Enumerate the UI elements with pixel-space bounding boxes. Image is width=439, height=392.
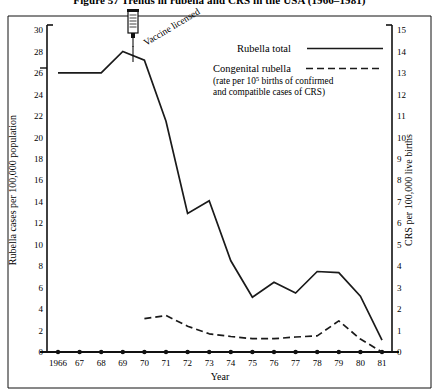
y-left-tick-label: 12	[34, 218, 43, 228]
x-tick-marker	[99, 350, 103, 354]
y-left-tick-label: 18	[34, 154, 44, 164]
y-right-tick-label: 13	[397, 68, 407, 78]
x-tick-label: 67	[75, 358, 85, 368]
x-tick-label: 79	[334, 358, 344, 368]
legend-label-congenital-rubella: Congenital rubella	[213, 63, 291, 74]
x-tick-label: 74	[226, 358, 236, 368]
x-tick-label: 81	[378, 358, 387, 368]
y-left-tick-label: 30	[34, 25, 44, 35]
x-tick-marker	[56, 350, 60, 354]
legend: Rubella total Congenital rubella (rate p…	[213, 43, 383, 98]
x-tick-marker	[293, 350, 297, 354]
x-tick-label: 69	[118, 358, 128, 368]
x-tick-marker	[272, 350, 276, 354]
x-tick-marker	[77, 350, 81, 354]
x-tick-marker	[164, 350, 168, 354]
x-tick-label: 75	[248, 358, 258, 368]
x-axis-title: Year	[211, 371, 230, 382]
x-tick-label: 78	[313, 358, 323, 368]
y-axis-left-title: Rubella cases per 100,000 population	[7, 115, 18, 265]
x-tick-marker	[229, 350, 233, 354]
x-tick-marker	[315, 350, 319, 354]
legend-note-prefix: (rate per 10	[213, 76, 256, 87]
legend-note-suffix: births of confirmed	[259, 76, 333, 86]
figure-root: Figure 57 Trends in rubella and CRS in t…	[0, 0, 439, 392]
y-left-tick-label: 14	[34, 197, 44, 207]
x-tick-label: 73	[205, 358, 215, 368]
legend-note-line2: and compatible cases of CRS)	[213, 87, 325, 98]
y-left-tick-label: 4	[39, 304, 44, 314]
x-tick-label: 72	[183, 358, 192, 368]
x-tick-label: 71	[162, 358, 171, 368]
y-left-tick-label: 28	[34, 47, 44, 57]
y-right-tick-label: 1	[397, 326, 402, 336]
y-left-tick-label: 24	[34, 90, 44, 100]
y-right-tick-label: 9	[397, 154, 402, 164]
x-tick-marker	[121, 350, 125, 354]
legend-note-line1: (rate per 105 births of confirmed	[213, 75, 334, 88]
y-left-tick-label: 10	[34, 240, 44, 250]
series-congenital-rubella	[144, 316, 382, 353]
y-left-tick-label: 0	[39, 347, 44, 357]
y-right-tick-label: 3	[397, 283, 402, 293]
y-axis-left-ticks: 024681012141618202224262830	[34, 25, 44, 357]
x-tick-marker	[358, 350, 362, 354]
x-tick-label: 77	[291, 358, 301, 368]
y-left-tick-label: 8	[39, 261, 44, 271]
syringe-icon	[127, 9, 139, 47]
x-tick-label: 1966	[49, 358, 68, 368]
y-right-tick-label: 8	[397, 175, 402, 185]
x-tick-marker	[142, 350, 146, 354]
x-tick-marker	[207, 350, 211, 354]
y-left-tick-label: 22	[34, 111, 43, 121]
y-right-tick-label: 12	[397, 90, 406, 100]
y-right-tick-label: 5	[397, 240, 402, 250]
y-right-tick-label: 15	[397, 25, 407, 35]
y-right-tick-label: 2	[397, 304, 402, 314]
y-right-tick-label: 6	[397, 218, 402, 228]
x-tick-label: 76	[270, 358, 280, 368]
x-tick-marker	[250, 350, 254, 354]
y-right-tick-label: 0	[397, 347, 402, 357]
y-right-tick-label: 14	[397, 47, 407, 57]
vaccine-licensed-label: Vaccine licensed	[142, 6, 202, 47]
y-left-tick-label: 2	[39, 326, 44, 336]
y-right-tick-label: 11	[397, 111, 406, 121]
y-left-tick-label: 16	[34, 175, 44, 185]
x-tick-marker	[185, 350, 189, 354]
y-right-tick-label: 7	[397, 197, 402, 207]
x-tick-marker	[337, 350, 341, 354]
x-tick-label: 68	[97, 358, 107, 368]
y-left-tick-label: 26	[34, 68, 44, 78]
x-tick-label: 80	[356, 358, 366, 368]
y-left-tick-label: 20	[34, 133, 44, 143]
y-right-tick-label: 4	[397, 261, 402, 271]
vaccine-annotation: Vaccine licensed	[127, 6, 202, 62]
legend-label-rubella-total: Rubella total	[237, 43, 291, 54]
y-axis-right-title: CRS per 100,000 live births	[403, 134, 414, 246]
y-left-tick-label: 6	[39, 283, 44, 293]
chart-canvas: 024681012141618202224262830 012345678910…	[0, 0, 439, 392]
x-tick-label: 70	[140, 358, 150, 368]
